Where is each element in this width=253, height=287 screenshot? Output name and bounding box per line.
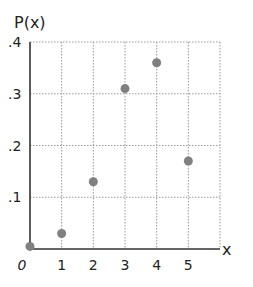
x-tick-label: 1 — [57, 257, 66, 273]
data-point — [121, 84, 130, 93]
y-axis-label: P(x) — [14, 13, 46, 32]
x-axis-label: x — [222, 240, 231, 259]
data-point — [184, 157, 193, 166]
x-tick-label: 0 — [18, 257, 27, 273]
x-tick-labels: 012345 — [18, 257, 193, 273]
y-tick-label: .2 — [8, 138, 21, 154]
grid-lines — [30, 42, 220, 249]
y-tick-labels: .1.2.3.4 — [8, 34, 21, 205]
data-points — [26, 58, 193, 251]
data-point — [26, 242, 35, 251]
x-tick-label: 4 — [152, 257, 161, 273]
probability-scatter-chart: .1.2.3.4 012345 P(x) x — [0, 0, 253, 287]
data-point — [152, 58, 161, 67]
data-point — [57, 229, 66, 238]
x-tick-label: 3 — [121, 257, 130, 273]
y-tick-label: .4 — [8, 34, 21, 50]
x-tick-label: 2 — [89, 257, 98, 273]
data-point — [89, 177, 98, 186]
x-tick-label: 5 — [184, 257, 193, 273]
y-tick-label: .3 — [8, 86, 21, 102]
y-tick-label: .1 — [8, 189, 21, 205]
